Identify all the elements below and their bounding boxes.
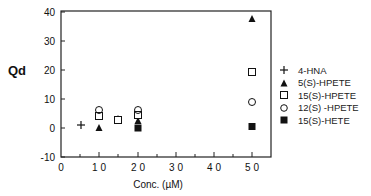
series-4-hna	[77, 121, 85, 129]
series-5s-hpete	[96, 15, 256, 131]
legend: 4-HNA 5(S)-HPETE 15(S)-HPETE 12(S) -HPET…	[278, 64, 359, 127]
y-tick-label: 40	[44, 7, 56, 18]
legend-item-15s-hpete: 15(S)-HPETE	[278, 89, 359, 102]
x-tick-label: 5 0	[245, 162, 259, 173]
legend-item-5s-hpete: 5(S)-HPETE	[278, 77, 359, 90]
filled-square-icon	[278, 114, 290, 126]
y-tick-label: 10	[44, 94, 56, 105]
filled-triangle-marker	[249, 15, 256, 22]
legend-label: 12(S) -HPETE	[298, 102, 359, 113]
open-square-icon	[278, 89, 290, 101]
filled-square-marker	[135, 125, 142, 132]
x-axis-label: Conc. (µM)	[133, 179, 183, 190]
series-15s-hpete	[96, 69, 256, 124]
open-circle-marker	[249, 99, 256, 106]
x-tick-label: 2 0	[131, 162, 145, 173]
legend-item-4-hna: 4-HNA	[278, 64, 359, 77]
x-axis: 0 1 0 2 0 3 0 4 0 5 0	[58, 152, 259, 173]
plus-icon	[278, 64, 290, 76]
filled-triangle-icon	[278, 77, 290, 89]
y-tick-label: 30	[44, 36, 56, 47]
series-12s-hpete	[96, 99, 256, 114]
filled-triangle-marker	[96, 124, 103, 131]
x-tick-label: 1 0	[92, 162, 106, 173]
legend-label: 15(S)-HETE	[298, 115, 350, 126]
legend-item-15s-hete: 15(S)-HETE	[278, 114, 359, 127]
x-tick-label: 4 0	[207, 162, 221, 173]
y-tick-label: 20	[44, 65, 56, 76]
y-axis-label: Qd	[8, 63, 26, 78]
legend-label: 15(S)-HPETE	[298, 90, 356, 101]
series-15s-hete	[135, 123, 256, 132]
open-square-marker	[249, 69, 256, 76]
plot-frame	[61, 11, 271, 157]
y-tick-label: -10	[41, 152, 56, 163]
plus-marker	[77, 121, 85, 129]
filled-square-marker	[249, 123, 256, 130]
open-circle-icon	[278, 102, 290, 114]
y-tick-label: 0	[49, 123, 55, 134]
legend-label: 5(S)-HPETE	[298, 77, 351, 88]
x-tick-label: 3 0	[169, 162, 183, 173]
open-square-marker	[115, 117, 122, 124]
x-tick-label: 0	[58, 162, 64, 173]
legend-item-12s-hpete: 12(S) -HPETE	[278, 102, 359, 115]
legend-label: 4-HNA	[298, 65, 327, 76]
